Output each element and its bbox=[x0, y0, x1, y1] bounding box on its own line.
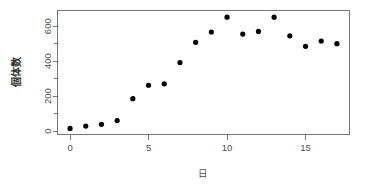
data-point bbox=[162, 81, 167, 86]
data-point bbox=[224, 15, 229, 20]
data-point bbox=[303, 44, 308, 49]
data-point bbox=[240, 31, 245, 36]
y-tick-label: 600 bbox=[42, 18, 53, 34]
data-points-group bbox=[67, 15, 339, 131]
x-tick-label: 10 bbox=[222, 142, 233, 153]
x-tick-label: 0 bbox=[67, 142, 72, 153]
data-point bbox=[177, 60, 182, 65]
data-point bbox=[83, 124, 88, 129]
y-tick-label: 200 bbox=[42, 88, 53, 104]
data-point bbox=[272, 15, 277, 20]
x-tick-label: 15 bbox=[300, 142, 311, 153]
data-point bbox=[209, 29, 214, 34]
x-axis: 051015 bbox=[67, 135, 310, 153]
data-point bbox=[67, 126, 72, 131]
data-point bbox=[99, 122, 104, 127]
y-tick-label: 0 bbox=[42, 128, 53, 133]
data-point bbox=[146, 83, 151, 88]
x-tick-label: 5 bbox=[146, 142, 151, 153]
y-axis-title: 個体数 bbox=[10, 56, 22, 88]
data-point bbox=[256, 29, 261, 34]
plot-frame bbox=[58, 11, 350, 135]
data-point bbox=[287, 33, 292, 38]
x-axis-title: 日 bbox=[198, 168, 208, 179]
data-point bbox=[319, 38, 324, 43]
data-point bbox=[193, 40, 198, 45]
chart-figure: 0200400600 051015 個体数 日 bbox=[0, 0, 376, 186]
data-point bbox=[334, 41, 339, 46]
y-axis: 0200400600 bbox=[42, 18, 57, 133]
data-point bbox=[130, 96, 135, 101]
y-tick-label: 400 bbox=[42, 53, 53, 69]
data-point bbox=[115, 118, 120, 123]
scatter-plot: 0200400600 051015 個体数 日 bbox=[0, 0, 376, 186]
